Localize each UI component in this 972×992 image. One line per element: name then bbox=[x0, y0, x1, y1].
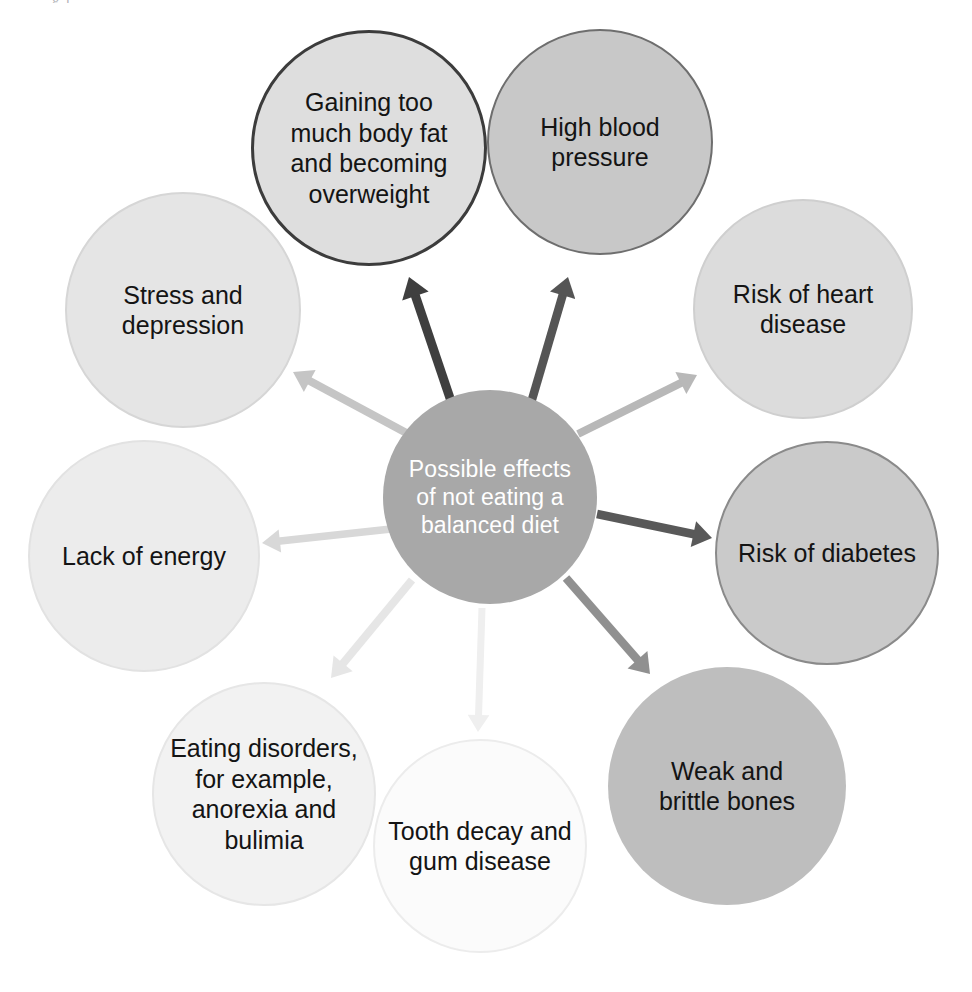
arrow-to-lack-of-energy bbox=[262, 529, 391, 553]
arrow-to-eating-disorders bbox=[331, 580, 412, 678]
node-tooth-decay[interactable]: Tooth decay and gum disease bbox=[373, 739, 587, 953]
node-stress-depression[interactable]: Stress and depression bbox=[65, 192, 301, 428]
node-diabetes[interactable]: Risk of diabetes bbox=[715, 441, 939, 665]
diagram-canvas: g ı Gaining too much body fat and becomi… bbox=[0, 0, 972, 992]
arrow-to-high-blood-pressure bbox=[531, 277, 575, 403]
arrow-to-diabetes bbox=[597, 514, 712, 547]
node-gaining-weight-label: Gaining too much body fat and becoming o… bbox=[282, 87, 455, 209]
arrow-to-heart-disease bbox=[578, 372, 697, 434]
node-stress-depression-label: Stress and depression bbox=[114, 280, 252, 341]
node-heart-disease-label: Risk of heart disease bbox=[725, 279, 881, 340]
node-tooth-decay-label: Tooth decay and gum disease bbox=[380, 816, 579, 877]
node-brittle-bones[interactable]: Weak and brittle bones bbox=[608, 667, 846, 905]
node-eating-disorders-label: Eating disorders, for example, anorexia … bbox=[162, 733, 366, 855]
node-center-topic-label: Possible effects of not eating a balance… bbox=[401, 455, 579, 539]
arrow-to-brittle-bones bbox=[566, 578, 650, 674]
arrow-to-tooth-decay bbox=[468, 608, 490, 732]
node-eating-disorders[interactable]: Eating disorders, for example, anorexia … bbox=[152, 682, 376, 906]
arrow-to-gaining-weight bbox=[402, 277, 452, 404]
node-gaining-weight[interactable]: Gaining too much body fat and becoming o… bbox=[251, 30, 487, 266]
node-high-blood-pressure[interactable]: High blood pressure bbox=[487, 29, 713, 255]
node-high-blood-pressure-label: High blood pressure bbox=[532, 112, 668, 173]
node-diabetes-label: Risk of diabetes bbox=[730, 538, 924, 569]
node-lack-of-energy-label: Lack of energy bbox=[54, 541, 234, 572]
arrow-to-stress-depression bbox=[293, 370, 412, 436]
node-heart-disease[interactable]: Risk of heart disease bbox=[693, 199, 913, 419]
node-lack-of-energy[interactable]: Lack of energy bbox=[28, 440, 260, 672]
node-brittle-bones-label: Weak and brittle bones bbox=[651, 756, 803, 817]
node-center-topic[interactable]: Possible effects of not eating a balance… bbox=[383, 390, 597, 604]
